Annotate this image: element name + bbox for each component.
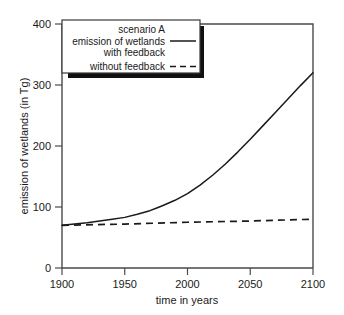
legend-entry1-line2: with feedback — [103, 47, 166, 58]
legend-entry1-line1: emission of wetlands — [72, 36, 165, 47]
x-tick-label-1900: 1900 — [50, 278, 74, 290]
y-tick-label-300: 300 — [33, 79, 51, 91]
y-tick-label-400: 400 — [33, 18, 51, 30]
x-tick-label-2100: 2100 — [301, 278, 325, 290]
y-axis-title: emission of wetlands (in Tg) — [18, 78, 30, 215]
y-tick-label-0: 0 — [45, 262, 51, 274]
x-tick-label-2050: 2050 — [238, 278, 262, 290]
emission-chart: 0 100 200 300 400 1900 1950 2000 2050 21… — [0, 0, 344, 315]
x-axis-title: time in years — [156, 294, 219, 306]
y-tick-label-100: 100 — [33, 201, 51, 213]
series-without-feedback — [62, 219, 313, 225]
x-tick-label-1950: 1950 — [113, 278, 137, 290]
x-tick-marks — [62, 268, 313, 275]
y-tick-label-200: 200 — [33, 140, 51, 152]
y-tick-marks — [55, 24, 62, 268]
legend-scenario-label: scenario A — [118, 24, 165, 35]
series-with-feedback — [62, 73, 313, 226]
legend-entry2: without feedback — [89, 61, 166, 72]
legend: scenario A emission of wetlands with fee… — [62, 20, 204, 78]
x-tick-label-2000: 2000 — [175, 278, 199, 290]
